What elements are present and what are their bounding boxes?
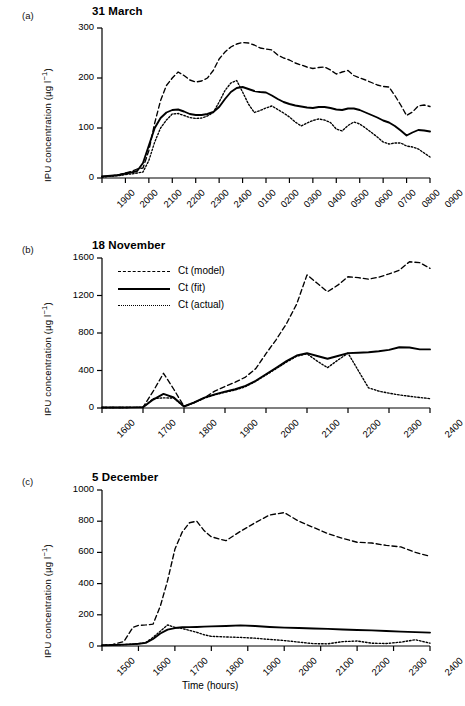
legend-label-model: Ct (model) (178, 265, 225, 276)
y-tick-label: 0 (56, 401, 94, 412)
panel-c: (c) 5 December IPU concentration (µg l−1… (0, 468, 446, 706)
dotted-line-icon (118, 305, 170, 309)
legend-label-fit: Ct (fit) (178, 282, 205, 293)
y-tick-label: 100 (56, 121, 94, 132)
y-tick-label: 0 (56, 639, 94, 650)
y-tick-label: 400 (56, 364, 94, 375)
panel-a: (a) 31 March IPU concentration (µg l−1) … (0, 0, 446, 236)
y-tick-label: 1200 (56, 289, 94, 300)
dashed-line-icon (118, 271, 170, 275)
panel-b: (b) 18 November IPU concentration (µg l−… (0, 236, 446, 468)
y-tick-label: 300 (56, 21, 94, 32)
y-tick-label: 200 (56, 608, 94, 619)
series-line (102, 347, 430, 407)
y-tick-label: 400 (56, 577, 94, 588)
x-axis-title: Time (hours) (182, 680, 238, 691)
series-line (102, 513, 430, 646)
y-tick-label: 0 (56, 171, 94, 182)
y-tick-label: 800 (56, 514, 94, 525)
series-line (102, 262, 430, 408)
series-line (102, 625, 430, 645)
y-tick-label: 1000 (56, 483, 94, 494)
series-line (102, 81, 430, 178)
series-line (102, 353, 430, 407)
y-tick-label: 200 (56, 71, 94, 82)
solid-line-icon (118, 288, 170, 293)
series-line (102, 43, 430, 177)
series-line (102, 87, 430, 177)
series-line (102, 625, 430, 645)
y-tick-label: 1600 (56, 251, 94, 262)
y-tick-label: 600 (56, 545, 94, 556)
y-tick-label: 800 (56, 326, 94, 337)
legend-label-actual: Ct (actual) (178, 299, 224, 310)
